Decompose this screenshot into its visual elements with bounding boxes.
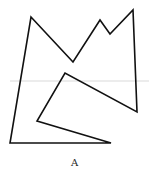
concave-polygon-shape (10, 10, 137, 143)
polygon-figure (0, 0, 149, 172)
figure-caption-label: A (0, 156, 149, 170)
